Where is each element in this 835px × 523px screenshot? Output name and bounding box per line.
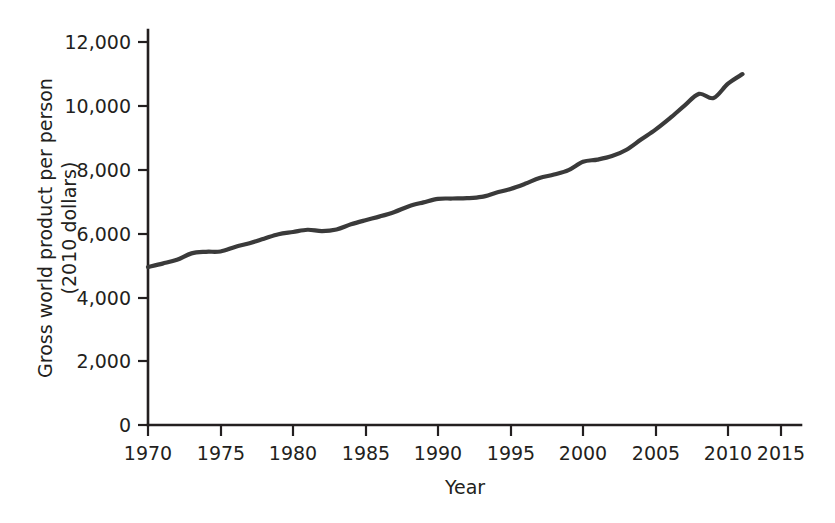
y-tick-label-8000: 8,000: [77, 159, 131, 181]
y-tick-label-10000: 10,000: [65, 95, 131, 117]
x-tick-label-1970: 1970: [124, 442, 172, 464]
y-axis-title-line1: Gross world product per person: [34, 78, 56, 378]
chart-container: 0 2,000 4,000 6,000 8,000 10,000 12,000 …: [0, 0, 835, 523]
x-tick-label-2015: 2015: [757, 442, 805, 464]
x-tick-labels: 1970 1975 1980 1985 1990 1995 2000 2005 …: [124, 442, 805, 464]
line-chart: 0 2,000 4,000 6,000 8,000 10,000 12,000 …: [0, 0, 835, 523]
x-tick-label-2000: 2000: [559, 442, 607, 464]
y-tick-marks: [138, 42, 148, 425]
data-series-line: [148, 74, 743, 267]
y-tick-label-4000: 4,000: [77, 287, 131, 309]
y-tick-label-6000: 6,000: [77, 223, 131, 245]
x-axis-title: Year: [444, 476, 485, 498]
x-tick-label-1990: 1990: [414, 442, 462, 464]
x-tick-label-2005: 2005: [632, 442, 680, 464]
x-tick-label-2010: 2010: [704, 442, 752, 464]
y-tick-label-12000: 12,000: [65, 31, 131, 53]
y-axis-title: Gross world product per person (2010 dol…: [34, 78, 80, 378]
x-tick-label-1995: 1995: [487, 442, 535, 464]
x-tick-label-1980: 1980: [269, 442, 317, 464]
x-tick-label-1985: 1985: [342, 442, 390, 464]
x-tick-label-1975: 1975: [197, 442, 245, 464]
y-tick-label-2000: 2,000: [77, 350, 131, 372]
x-tick-marks: [148, 425, 781, 436]
y-tick-label-0: 0: [119, 414, 131, 436]
y-axis-title-line2: (2010 dollars): [58, 162, 80, 295]
